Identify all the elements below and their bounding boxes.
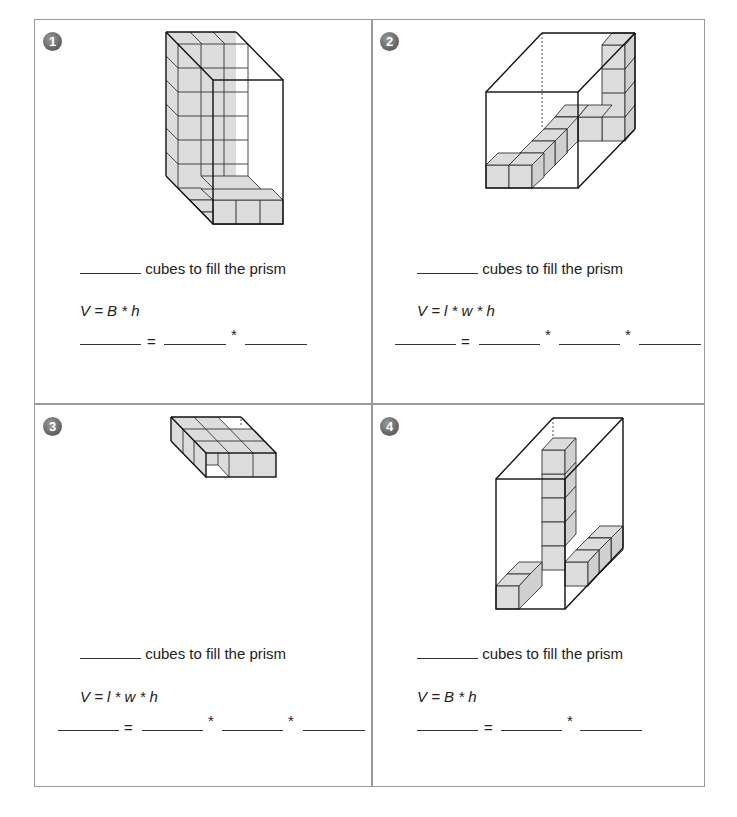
length-answer-blank[interactable] [142,716,203,731]
fill-text: cubes to fill the prism [482,260,623,277]
width-answer-blank[interactable] [222,716,283,731]
problem-3-fill-line: cubes to fill the prism [80,644,286,662]
equals-sign: = [124,719,133,736]
equals-sign: = [147,333,156,350]
volume-answer-blank[interactable] [80,330,141,345]
problem-4-formula: V = B * h [417,688,477,705]
cube-count-answer-blank[interactable] [80,644,141,659]
prism-1-figure [166,32,283,224]
fill-text: cubes to fill the prism [145,260,286,277]
fill-text: cubes to fill the prism [145,645,286,662]
problem-4-fill-line: cubes to fill the prism [417,644,623,662]
multiply-sign: * [208,712,214,729]
volume-answer-blank[interactable] [58,716,119,731]
length-answer-blank[interactable] [479,330,540,345]
multiply-sign: * [625,326,631,343]
problem-2-fill-line: cubes to fill the prism [417,259,623,277]
base-answer-blank[interactable] [501,716,562,731]
multiply-sign: * [231,326,237,343]
height-answer-blank[interactable] [245,330,307,345]
multiply-sign: * [567,712,573,729]
height-answer-blank[interactable] [639,330,701,345]
problem-1-fill-line: cubes to fill the prism [80,259,286,277]
prism-4-figure [496,418,623,609]
cube-count-answer-blank[interactable] [417,644,478,659]
problem-2-formula: V = l * w * h [417,302,495,319]
equals-sign: = [484,719,493,736]
prism-3-figure [171,417,276,477]
width-answer-blank[interactable] [559,330,620,345]
cube-count-answer-blank[interactable] [80,259,141,274]
height-answer-blank[interactable] [303,716,365,731]
fill-text: cubes to fill the prism [482,645,623,662]
base-answer-blank[interactable] [164,330,226,345]
cube-count-answer-blank[interactable] [417,259,478,274]
multiply-sign: * [545,326,551,343]
multiply-sign: * [288,712,294,729]
height-answer-blank[interactable] [580,716,642,731]
problem-1-formula: V = B * h [80,302,140,319]
prism-2-figure [486,33,635,188]
problem-3-formula: V = l * w * h [80,688,158,705]
volume-answer-blank[interactable] [395,330,456,345]
equals-sign: = [461,333,470,350]
volume-answer-blank[interactable] [417,716,478,731]
